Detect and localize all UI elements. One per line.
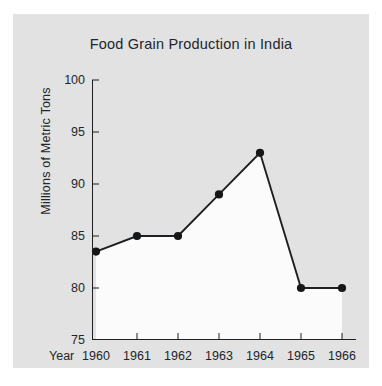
data-point-marker <box>338 284 346 292</box>
x-tick-label: 1960 <box>82 349 110 363</box>
y-tick-mark <box>92 236 99 237</box>
y-tick-mark <box>92 80 99 81</box>
y-tick-mark <box>92 184 99 185</box>
y-axis-label: Millions of Metric Tons <box>39 56 53 246</box>
y-tick-label: 85 <box>71 229 85 243</box>
x-tick-label: 1964 <box>246 349 274 363</box>
data-point-marker <box>256 149 264 157</box>
data-point-marker <box>297 284 305 292</box>
x-tick-label: 1962 <box>164 349 192 363</box>
x-tick-label: 1961 <box>123 349 151 363</box>
area-fill <box>96 153 342 340</box>
data-point-marker <box>174 232 182 240</box>
x-tick-mark <box>260 333 261 340</box>
x-axis-caption: Year <box>49 349 74 363</box>
y-tick-label: 95 <box>71 125 85 139</box>
line-chart-svg <box>92 80 356 340</box>
x-tick-label: 1963 <box>205 349 233 363</box>
y-tick-label: 75 <box>71 333 85 347</box>
y-tick-mark <box>92 132 99 133</box>
data-point-marker <box>133 232 141 240</box>
x-axis-line <box>92 339 356 340</box>
y-axis-line <box>92 80 93 340</box>
plot-area: 7580859095100 19601961196219631964196519… <box>92 80 356 340</box>
y-tick-label: 80 <box>71 281 85 295</box>
y-tick-label: 100 <box>64 73 85 87</box>
chart-figure: Food Grain Production in India Millions … <box>13 14 369 368</box>
x-tick-label: 1966 <box>328 349 356 363</box>
y-tick-label: 90 <box>71 177 85 191</box>
x-tick-mark <box>178 333 179 340</box>
chart-title: Food Grain Production in India <box>13 36 369 52</box>
y-tick-mark <box>92 288 99 289</box>
data-point-marker <box>215 190 223 198</box>
x-tick-mark <box>301 333 302 340</box>
x-tick-mark <box>342 333 343 340</box>
x-tick-mark <box>219 333 220 340</box>
x-tick-mark <box>137 333 138 340</box>
x-tick-label: 1965 <box>287 349 315 363</box>
data-point-marker <box>92 248 100 256</box>
